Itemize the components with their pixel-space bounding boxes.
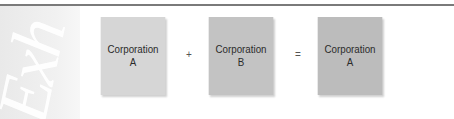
- exhibit-watermark: Exh: [0, 15, 80, 119]
- corporation-b-box: Corporation B: [209, 17, 274, 95]
- box-label-line1: Corporation: [324, 43, 375, 56]
- box-label-line2: A: [130, 56, 137, 69]
- box-label-line2: B: [238, 56, 245, 69]
- corporation-a-box: Corporation A: [101, 17, 166, 95]
- box-label-line2: A: [347, 56, 354, 69]
- plus-operator: +: [186, 49, 192, 60]
- exhibit-sidebar: Exh: [0, 6, 80, 119]
- equals-operator: =: [295, 49, 301, 60]
- box-label-line1: Corporation: [215, 43, 266, 56]
- result-corporation-a-box: Corporation A: [318, 17, 383, 95]
- box-label-line1: Corporation: [107, 43, 158, 56]
